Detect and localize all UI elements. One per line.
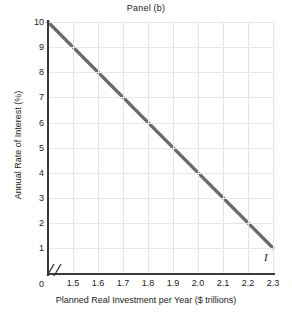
gridline-horizontal (48, 123, 274, 124)
y-tick-label: 8 (22, 67, 44, 77)
curve-label-investment: I (264, 251, 268, 263)
y-tick-label: 2 (22, 218, 44, 228)
gridline-horizontal (48, 22, 274, 23)
y-tick-label: 10 (22, 17, 44, 27)
axis-break-icon (44, 262, 70, 278)
y-tick-label: 9 (22, 42, 44, 52)
x-axis-title: Planned Real Investment per Year ($ tril… (0, 295, 292, 305)
gridline-horizontal (48, 223, 274, 224)
x-axis-line (47, 273, 275, 275)
gridline-horizontal (48, 72, 274, 73)
x-tick-label-group: 1.5 1.6 1.7 1.8 1.9 2.0 2.1 2.2 2.3 2.4 (0, 278, 292, 292)
gridline-horizontal (48, 198, 274, 199)
y-tick-label: 7 (22, 92, 44, 102)
y-tick-label: 6 (22, 118, 44, 128)
x-tick-label: 2.4 (283, 278, 292, 289)
y-axis-title: Annual Rate of Interest (%) (13, 65, 23, 225)
chart-figure: Panel (b) 10 9 8 7 6 5 (0, 0, 292, 317)
y-tick-label: 3 (22, 193, 44, 203)
y-tick-label: 5 (22, 143, 44, 153)
gridline-horizontal (48, 148, 274, 149)
gridline-horizontal (48, 173, 274, 174)
y-tick-label: 1 (22, 243, 44, 253)
gridline-horizontal (48, 47, 274, 48)
gridline-horizontal (48, 248, 274, 249)
y-axis-line (47, 20, 49, 276)
plot-area (48, 22, 274, 274)
gridline-horizontal (48, 97, 274, 98)
y-tick-label: 4 (22, 168, 44, 178)
